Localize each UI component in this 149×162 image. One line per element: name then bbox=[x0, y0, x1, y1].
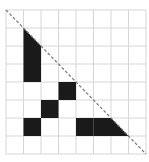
grid-diagram bbox=[0, 0, 149, 162]
filled-cell bbox=[94, 118, 112, 136]
grid-canvas bbox=[0, 0, 149, 162]
filled-cell bbox=[24, 118, 42, 136]
filled-cell bbox=[76, 118, 94, 136]
filled-cell bbox=[41, 100, 59, 118]
filled-cell bbox=[24, 64, 42, 82]
filled-cell bbox=[24, 46, 42, 64]
filled-cell bbox=[59, 82, 77, 100]
